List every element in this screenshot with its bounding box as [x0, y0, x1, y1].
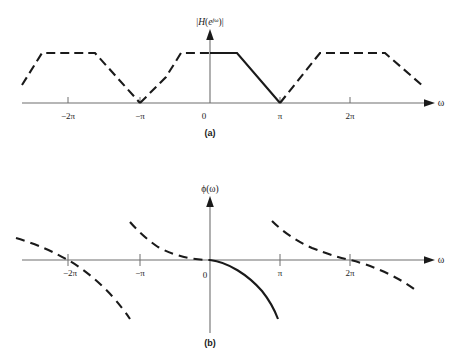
panel-b-phase-solid-curve	[210, 260, 278, 319]
panel-a-magnitude-solid-curve	[210, 53, 280, 103]
panel-a-x-axis-label: ω	[438, 97, 445, 108]
panel-b-y-axis	[206, 196, 214, 333]
panel-a-tick-label-neg2pi: −2π	[61, 111, 76, 121]
panel-a-tick-label-negpi: −π	[135, 111, 145, 121]
panel-a-magnitude-dashed-curve	[22, 53, 424, 103]
panel-a-tick-label-zero: 0	[202, 111, 207, 121]
panel-b-y-axis-label: ϕ(ω)	[201, 184, 219, 195]
panel-a-y-axis	[206, 29, 214, 103]
panel-a-caption: (a)	[190, 128, 230, 138]
panel-b-tick-label-negpi: −π	[135, 268, 145, 278]
panel-b-tick-label-2pi: 2π	[345, 268, 355, 278]
panel-b-x-axis-label: ω	[438, 254, 445, 265]
panel-b-caption: (b)	[190, 338, 230, 348]
panel-b-tick-label-pi: π	[278, 268, 283, 278]
panel-b-tick-label-neg2pi: −2π	[63, 268, 78, 278]
panel-a-x-axis	[22, 99, 435, 107]
panel-a-tick-label-pi: π	[278, 111, 283, 121]
panel-b-tick-label-zero: 0	[203, 270, 208, 280]
panel-a-tick-label-2pi: 2π	[345, 111, 355, 121]
figure-frequency-response: |H(ejω)| ω −2π −π 0 π 2π (a)	[0, 0, 452, 362]
panel-a-y-axis-label: |H(ejω)|	[196, 16, 223, 29]
panel-a-ticks	[68, 97, 350, 103]
panel-b-phase-plot: ϕ(ω) ω −2π −π 0 π 2π	[0, 183, 452, 348]
panel-b-x-axis	[22, 256, 435, 264]
